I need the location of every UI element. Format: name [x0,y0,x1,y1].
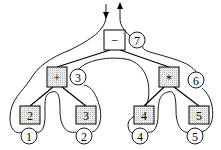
svg-text:3: 3 [75,71,81,85]
node-leaf-5: 5 [189,106,209,124]
node-leaf-3: 3 [76,106,96,124]
svg-text:5: 5 [192,130,198,144]
svg-text:6: 6 [193,74,199,88]
order-circle-6: 6 [188,72,204,88]
node-minus: − [104,30,125,50]
order-circle-3: 3 [70,69,86,85]
svg-text:*: * [166,72,172,86]
up-arrow-icon [117,2,123,9]
order-circle-5: 5 [187,128,203,144]
svg-text:2: 2 [81,130,87,144]
svg-text:1: 1 [26,130,32,144]
down-arrow-icon [103,12,109,19]
order-circle-1: 1 [21,128,37,144]
svg-text:2: 2 [27,109,33,123]
node-leaf-2: 2 [20,106,40,124]
order-circle-7: 7 [129,32,145,48]
svg-text:4: 4 [141,109,147,123]
svg-text:5: 5 [196,109,202,123]
node-times: * [159,67,179,87]
node-plus: + [47,67,67,87]
order-circle-4: 4 [132,128,148,144]
expression-tree-diagram: − + * 2 3 4 5 7 3 6 1 2 [0,0,221,150]
node-leaf-4: 4 [134,106,154,124]
svg-text:3: 3 [83,109,89,123]
order-circle-2: 2 [76,128,92,144]
svg-text:4: 4 [137,130,143,144]
svg-text:7: 7 [134,34,140,48]
svg-text:+: + [54,71,61,85]
svg-text:−: − [111,33,118,48]
